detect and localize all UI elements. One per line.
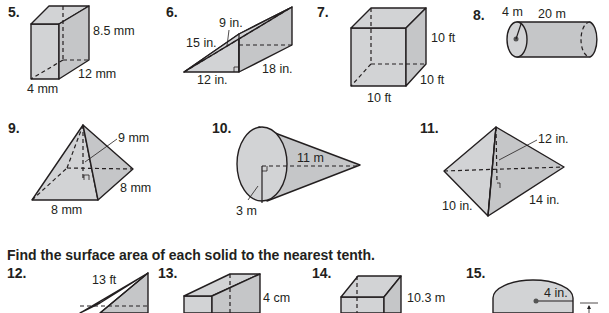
problem-number-10: 10.: [212, 120, 231, 136]
dimension-label: 12 in.: [538, 132, 569, 146]
problem-number-11: 11.: [420, 120, 439, 136]
problem-number-7: 7.: [317, 4, 329, 20]
dimension-label: 12 in.: [197, 73, 228, 87]
problem-number-14: 14.: [312, 265, 331, 281]
problem-number-5: 5.: [8, 4, 20, 20]
dimension-label: 4 in.: [544, 286, 568, 300]
dimension-label: 9 in.: [219, 16, 243, 30]
figure-14-rectangular-prism: [341, 276, 401, 313]
dimension-label: 9 mm: [118, 131, 149, 145]
dimension-label: 10 ft: [367, 91, 391, 105]
problem-number-13: 13.: [158, 265, 177, 281]
dimension-label: 13 ft: [92, 273, 116, 287]
problem-number-6: 6.: [166, 4, 178, 20]
figure-7-cube: [351, 8, 426, 86]
figure-8-cylinder: [507, 22, 597, 57]
instruction-heading: Find the surface area of each solid to t…: [7, 247, 375, 263]
dimension-label: 3 m: [236, 204, 257, 218]
dimension-label: 8.5 mm: [93, 24, 135, 38]
problem-number-9: 9.: [8, 120, 20, 136]
dimension-label: 4 cm: [263, 291, 290, 305]
dimension-label: 15 in.: [186, 36, 217, 50]
dimension-label: 4 mm: [27, 82, 58, 96]
dimension-label: 12 mm: [78, 67, 116, 81]
dimension-label: 14 in.: [529, 193, 560, 207]
dimension-label: 10 in.: [442, 199, 473, 213]
problem-number-12: 12.: [7, 265, 26, 281]
dimension-label: 4 m: [502, 5, 523, 19]
dimension-label: 10 ft: [431, 31, 455, 45]
dimension-label: 10.3 m: [407, 291, 445, 305]
problem-number-15: 15.: [466, 265, 485, 281]
figure-10-cone: [237, 127, 360, 203]
problem-number-8: 8.: [473, 7, 485, 23]
dimension-label: 10 ft: [420, 73, 444, 87]
dimension-label: 18 in.: [262, 62, 293, 76]
dimension-label: 8 mm: [51, 203, 82, 217]
figure-13-rectangular-prism: [184, 274, 260, 313]
dimension-label: 8 mm: [120, 181, 151, 195]
dimension-label: 20 m: [538, 7, 566, 21]
dimension-label: 11 m: [297, 151, 324, 165]
